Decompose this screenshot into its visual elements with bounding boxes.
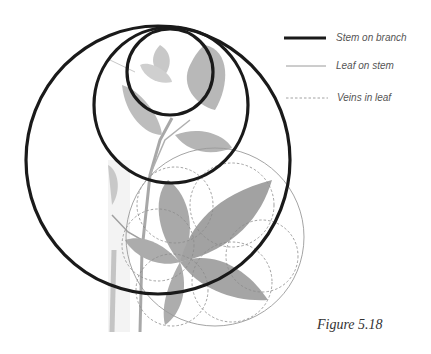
twig xyxy=(110,60,135,72)
leaf-mid-left xyxy=(122,85,162,135)
leaf-top-right xyxy=(187,45,225,110)
legend xyxy=(284,38,328,98)
legend-label-stem-on-branch: Stem on branch xyxy=(336,32,407,44)
leaflet-lower-right xyxy=(180,258,268,300)
legend-label-leaf-on-stem: Leaf on stem xyxy=(336,60,394,72)
branch-stem xyxy=(112,250,114,332)
figure-5-18-diagram xyxy=(0,0,431,354)
figure-caption: Figure 5.18 xyxy=(317,317,383,333)
legend-label-veins-in-leaf: Veins in leaf xyxy=(337,92,391,104)
